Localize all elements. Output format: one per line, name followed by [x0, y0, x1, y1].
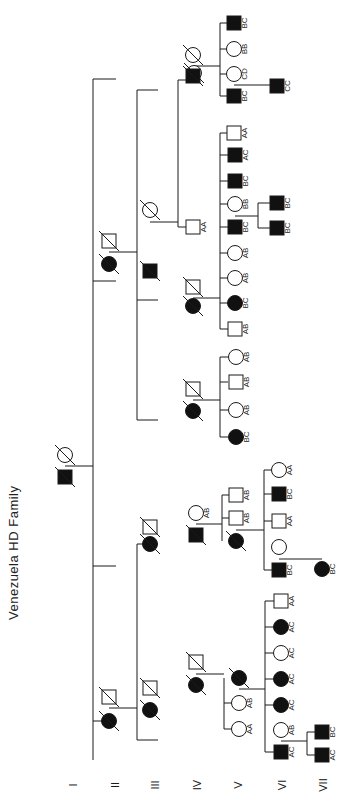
male-individual [186, 525, 206, 545]
genotype-label: AB [242, 377, 251, 388]
generation-label: II [109, 782, 121, 788]
genotype-label: BC [240, 17, 249, 28]
female-individual: BC [315, 562, 338, 577]
male-individual [183, 277, 203, 297]
square-symbol [270, 196, 284, 210]
female-individual: AB [229, 403, 252, 418]
female-individual [183, 45, 203, 65]
female-individual: AA [272, 463, 295, 478]
square-symbol [270, 79, 284, 93]
male-individual: BC [228, 220, 250, 234]
female-individual: AA [232, 722, 255, 737]
female-individual: BC [228, 296, 251, 311]
male-individual: AA [227, 126, 249, 140]
genotype-label: AB [242, 352, 251, 363]
genotype-label: AB [241, 324, 250, 335]
genotype-label: AC [287, 746, 296, 757]
male-individual [55, 467, 75, 487]
square-symbol [228, 322, 242, 336]
genotype-label: BC [285, 488, 294, 499]
female-individual [183, 296, 203, 316]
female-individual: BB [227, 42, 250, 57]
genotype-label: AB [242, 405, 251, 416]
male-individual [183, 379, 203, 399]
square-symbol [272, 487, 286, 501]
genotype-label: BB [241, 199, 250, 210]
square-symbol [315, 725, 329, 739]
male-individual [140, 678, 160, 698]
genotype-label: AB [287, 725, 296, 736]
female-individual [99, 254, 119, 274]
male-individual: BC [272, 563, 294, 577]
generation-label: IV [191, 779, 203, 790]
female-individual [140, 534, 160, 554]
male-individual: AB [228, 322, 250, 336]
male-individual [99, 231, 119, 251]
pedigree-chart: AAABBCBBCDBCAAACBCBBBCABABBCABABABABBCAB… [0, 0, 344, 812]
generation-label: VII [317, 778, 329, 791]
generation-label: VI [276, 780, 288, 790]
male-individual: BC [270, 196, 292, 210]
square-symbol [229, 375, 243, 389]
female-individual: AB [189, 506, 212, 521]
genotype-label: AA [287, 595, 296, 606]
genotype-label: AB [245, 698, 254, 709]
genotype-label: AA [285, 464, 294, 475]
female-individual: CD [227, 67, 250, 82]
male-individual [140, 261, 160, 281]
genotype-label: AC [287, 621, 296, 632]
male-individual: BC [227, 16, 249, 30]
square-symbol [229, 511, 243, 525]
male-individual [183, 66, 203, 86]
square-symbol [274, 745, 288, 759]
genotype-label: BC [241, 297, 250, 308]
male-individual: AA [186, 220, 208, 234]
generation-label: V [232, 781, 244, 789]
square-symbol [228, 148, 242, 162]
genotype-label: AB [242, 513, 251, 524]
genotype-label: CC [283, 80, 292, 92]
square-symbol [274, 594, 288, 608]
genotype-label: AA [240, 127, 249, 138]
male-individual [99, 687, 119, 707]
genotype-label: AC [287, 673, 296, 684]
female-individual: AB [228, 271, 251, 286]
genotype-label: AC [328, 749, 337, 760]
square-symbol [229, 488, 243, 502]
male-individual: AA [272, 514, 294, 528]
female-individual [186, 675, 206, 695]
genotype-label: BC [283, 222, 292, 233]
female-individual: AB [228, 246, 251, 261]
square-symbol [227, 126, 241, 140]
generation-label: III [149, 780, 161, 789]
genotype-label: AA [199, 221, 208, 232]
female-individual [272, 540, 287, 555]
male-individual: BC [315, 725, 337, 739]
male-individual: AB [229, 488, 251, 502]
square-symbol [227, 89, 241, 103]
male-individual [186, 652, 206, 672]
female-individual: AC [274, 672, 297, 687]
genotype-label: BC [241, 221, 250, 232]
genotype-label: BC [283, 197, 292, 208]
genotype-label: BC [240, 90, 249, 101]
genotype-label: AA [285, 515, 294, 526]
male-individual: BC [228, 174, 250, 188]
genotype-label: AB [242, 490, 251, 501]
female-individual [55, 445, 75, 465]
female-individual [140, 700, 160, 720]
genotype-label: BB [240, 44, 249, 55]
square-symbol [228, 220, 242, 234]
square-symbol [272, 514, 286, 528]
genotype-label: AB [241, 273, 250, 284]
male-individual: AC [315, 748, 337, 762]
pedigree-individuals: AAABBCBBCDBCAAACBCBBBCABABBCABABABABBCAB… [55, 16, 337, 762]
male-individual: AC [274, 745, 296, 759]
chart-title: Venezuela HD Family [6, 486, 21, 621]
genotype-label: BC [241, 175, 250, 186]
genotype-label: BC [242, 431, 251, 442]
female-individual: BB [228, 197, 251, 212]
generation-labels: IIIIIIIVVVIVII [67, 778, 329, 791]
genotype-label: CD [240, 68, 249, 80]
square-symbol [228, 174, 242, 188]
